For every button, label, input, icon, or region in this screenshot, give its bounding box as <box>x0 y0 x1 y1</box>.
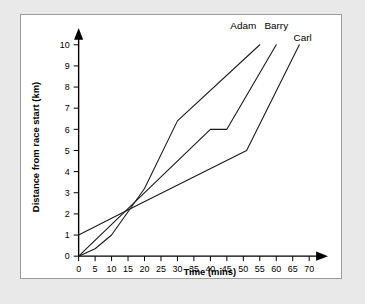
y-tick-label: 1 <box>65 230 70 240</box>
y-tick-label: 8 <box>65 82 70 92</box>
x-tick-label: 25 <box>156 264 166 274</box>
y-axis-ticks: 012345678910 <box>60 40 79 261</box>
y-axis-title: Distance from race start (km) <box>30 82 41 212</box>
series-lines <box>79 45 300 256</box>
y-tick-label: 2 <box>65 209 70 219</box>
x-axis-title: Time (mins) <box>183 266 236 277</box>
y-tick-label: 9 <box>65 61 70 71</box>
distance-time-line-chart: 012345678910 051015202530354045505560657… <box>21 15 341 278</box>
x-tick-label: 0 <box>76 264 81 274</box>
x-axis-arrowhead <box>316 252 328 261</box>
series-label-adam: Adam <box>230 20 256 31</box>
series-line-adam <box>79 45 260 256</box>
x-tick-label: 10 <box>107 264 117 274</box>
y-tick-label: 3 <box>65 188 70 198</box>
x-tick-label: 20 <box>140 264 150 274</box>
y-tick-label: 4 <box>65 167 70 177</box>
series-labels: AdamBarryCarl <box>230 20 311 43</box>
x-tick-label: 50 <box>238 264 248 274</box>
series-label-barry: Barry <box>264 20 288 31</box>
y-tick-label: 0 <box>65 251 70 261</box>
y-axis-arrowhead <box>74 28 83 40</box>
x-tick-label: 55 <box>255 264 265 274</box>
series-line-carl <box>79 45 300 235</box>
y-tick-label: 6 <box>65 125 70 135</box>
x-tick-label: 60 <box>271 264 281 274</box>
x-tick-label: 15 <box>123 264 133 274</box>
x-tick-label: 70 <box>304 264 314 274</box>
y-tick-label: 10 <box>60 40 70 50</box>
y-tick-label: 5 <box>65 146 70 156</box>
series-label-carl: Carl <box>294 32 312 43</box>
x-tick-label: 5 <box>93 264 98 274</box>
y-tick-label: 7 <box>65 103 70 113</box>
x-tick-label: 65 <box>288 264 298 274</box>
x-tick-label: 30 <box>172 264 182 274</box>
chart-figure: 012345678910 051015202530354045505560657… <box>20 14 342 279</box>
